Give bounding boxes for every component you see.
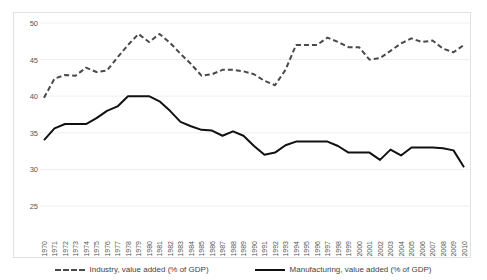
x-axis-tick-1974: 1974 — [83, 241, 90, 257]
y-axis-tick-45: 45 — [30, 55, 38, 64]
y-axis-tick-35: 35 — [30, 128, 38, 137]
x-axis-tick-1996: 1996 — [314, 241, 321, 257]
chart-legend: Industry, value added (% of GDP) Manufac… — [14, 261, 472, 279]
x-axis-tick-1985: 1985 — [198, 241, 205, 257]
x-axis-tick-1977: 1977 — [114, 241, 121, 257]
x-axis-tick-1982: 1982 — [167, 241, 174, 257]
y-axis-tick-25: 25 — [30, 202, 38, 211]
y-axis-tick-30: 30 — [30, 165, 38, 174]
y-axis-tick-50: 50 — [30, 19, 38, 28]
series-line-industry — [44, 34, 464, 98]
x-axis-tick-1990: 1990 — [251, 241, 258, 257]
x-axis-tick-1993: 1993 — [282, 241, 289, 257]
x-axis-tick-2009: 2009 — [450, 241, 457, 257]
x-axis-tick-1988: 1988 — [230, 241, 237, 257]
legend-item-industry: Industry, value added (% of GDP) — [55, 266, 209, 274]
x-axis-tick-2003: 2003 — [387, 241, 394, 257]
x-axis-tick-1976: 1976 — [104, 241, 111, 257]
x-axis-tick-1991: 1991 — [261, 241, 268, 257]
x-axis-tick-1999: 1999 — [345, 241, 352, 257]
x-axis: 1970197119721973197419751976197719781979… — [40, 209, 470, 257]
x-axis-tick-1970: 1970 — [41, 241, 48, 257]
x-axis-tick-1998: 1998 — [335, 241, 342, 257]
x-axis-tick-2008: 2008 — [440, 241, 447, 257]
x-axis-tick-2005: 2005 — [408, 241, 415, 257]
x-axis-tick-2000: 2000 — [356, 241, 363, 257]
legend-swatch-dashed-icon — [55, 269, 85, 271]
x-axis-tick-1981: 1981 — [156, 241, 163, 257]
series-line-manufacturing — [44, 96, 464, 167]
x-axis-tick-1973: 1973 — [72, 241, 79, 257]
x-axis-tick-1975: 1975 — [93, 241, 100, 257]
x-axis-tick-2004: 2004 — [398, 241, 405, 257]
x-axis-tick-1987: 1987 — [219, 241, 226, 257]
x-axis-tick-2007: 2007 — [429, 241, 436, 257]
x-axis-tick-1986: 1986 — [209, 241, 216, 257]
x-axis-tick-2010: 2010 — [461, 241, 468, 257]
x-axis-tick-1995: 1995 — [303, 241, 310, 257]
x-axis-tick-1971: 1971 — [51, 241, 58, 257]
x-axis-tick-1983: 1983 — [177, 241, 184, 257]
y-axis-tick-40: 40 — [30, 92, 38, 101]
legend-item-manufacturing: Manufacturing, value added (% of GDP) — [255, 266, 432, 274]
x-axis-tick-1984: 1984 — [188, 241, 195, 257]
x-axis-tick-1980: 1980 — [146, 241, 153, 257]
x-axis-tick-2006: 2006 — [419, 241, 426, 257]
x-axis-tick-2002: 2002 — [377, 241, 384, 257]
x-axis-tick-1979: 1979 — [135, 241, 142, 257]
legend-label-manufacturing: Manufacturing, value added (% of GDP) — [290, 266, 432, 274]
x-axis-tick-1997: 1997 — [324, 241, 331, 257]
legend-label-industry: Industry, value added (% of GDP) — [90, 266, 209, 274]
chart-container: 253035404550 197019711972197319741975197… — [13, 12, 471, 258]
x-axis-tick-1972: 1972 — [62, 241, 69, 257]
plot-area: 253035404550 197019711972197319741975197… — [14, 13, 472, 257]
x-axis-tick-1978: 1978 — [125, 241, 132, 257]
x-axis-tick-1992: 1992 — [272, 241, 279, 257]
x-axis-tick-1994: 1994 — [293, 241, 300, 257]
legend-swatch-solid-icon — [255, 269, 285, 271]
y-axis: 253035404550 — [20, 13, 38, 257]
x-axis-tick-2001: 2001 — [366, 241, 373, 257]
x-axis-tick-1989: 1989 — [240, 241, 247, 257]
